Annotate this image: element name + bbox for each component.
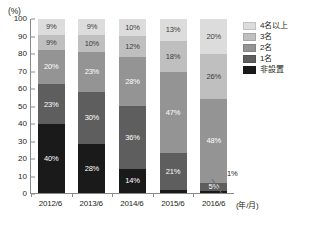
stacked-bar[interactable]: 9%9%20%23%40% (38, 19, 65, 193)
bar-segment-label: 23% (44, 101, 58, 109)
bar-segment-label: 9% (46, 23, 56, 31)
bar-segment[interactable]: 36% (119, 106, 146, 169)
x-axis-tick-mark (112, 193, 113, 197)
bar-column: 9%10%23%30%28% (72, 19, 113, 193)
bar-segment[interactable] (200, 191, 227, 193)
legend-item[interactable]: 3名 (243, 33, 288, 41)
bar-segment-label: 23% (85, 68, 99, 76)
x-axis-tick-mark (153, 193, 154, 197)
bar-segment-label: 47% (166, 109, 180, 117)
stacked-bar[interactable]: 13%18%47%21% (160, 19, 187, 193)
x-axis-tick-label: 2016/6 (193, 199, 234, 213)
bar-segment[interactable]: 47% (160, 72, 187, 153)
bar-segment-label: 10% (125, 24, 139, 32)
y-axis-tick-label: 40 (18, 120, 31, 128)
legend-swatch-icon (243, 33, 256, 41)
stacked-bar[interactable]: 10%12%28%36%14% (119, 19, 146, 193)
x-axis-tick-label: 2015/6 (152, 199, 193, 213)
bar-column: 9%9%20%23%40% (31, 19, 72, 193)
bar-segment[interactable]: 20% (200, 19, 227, 54)
bar-segment[interactable]: 10% (78, 35, 105, 52)
bar-segment-label: 9% (46, 39, 56, 47)
y-axis-tick-label: 20 (18, 155, 31, 163)
bar-segment[interactable]: 48% (200, 99, 227, 183)
legend-item[interactable]: 4名以上 (243, 22, 288, 30)
legend-item-label: 2名 (260, 44, 272, 52)
bar-column: 20%26%48%5% (193, 19, 234, 193)
bar-segment-label: 28% (85, 165, 99, 173)
legend-item-label: 非設置 (260, 66, 283, 74)
x-axis-tick-mark (31, 193, 32, 197)
y-axis-tick-label: 10 (18, 173, 31, 181)
bar-segment[interactable]: 12% (119, 36, 146, 57)
y-axis-tick-label: 30 (18, 138, 31, 146)
bar-segment-label: 36% (125, 134, 139, 142)
bar-segment[interactable]: 20% (38, 50, 65, 84)
bar-segment[interactable]: 23% (38, 84, 65, 124)
x-axis-tick-mark (72, 193, 73, 197)
legend-item[interactable]: 非設置 (243, 66, 288, 74)
bar-segment-label: 30% (85, 114, 99, 122)
bar-segment[interactable] (160, 190, 187, 193)
x-axis-tick-label: 2014/6 (112, 199, 153, 213)
bar-segment[interactable]: 9% (38, 19, 65, 35)
stacked-bar[interactable]: 20%26%48%5% (200, 19, 227, 193)
bar-group: 9%9%20%23%40%9%10%23%30%28%10%12%28%36%1… (31, 19, 234, 193)
bar-segment[interactable]: 30% (78, 92, 105, 144)
y-axis-tick-label: 100 (14, 15, 31, 23)
bar-segment[interactable]: 23% (78, 52, 105, 92)
legend-item-label: 4名以上 (260, 22, 288, 30)
bar-segment[interactable]: 14% (119, 169, 146, 193)
bar-segment[interactable]: 13% (160, 19, 187, 41)
bar-segment-label: 13% (166, 26, 180, 34)
legend: 4名以上3名2名1名非設置 (243, 22, 288, 74)
x-axis-tick-label: 2012/6 (30, 199, 71, 213)
y-axis-tick-label: 70 (18, 68, 31, 76)
bar-segment[interactable]: 28% (78, 144, 105, 193)
bar-segment[interactable]: 21% (160, 153, 187, 189)
annotation-label: 1% (227, 169, 237, 178)
y-axis-tick-label: 0 (23, 190, 31, 198)
bar-segment-label: 10% (85, 40, 99, 48)
bar-segment[interactable]: 5% (200, 183, 227, 192)
legend-swatch-icon (243, 66, 256, 74)
bar-segment[interactable]: 26% (200, 54, 227, 99)
bar-segment[interactable]: 10% (119, 19, 146, 36)
bar-segment-label: 14% (125, 177, 139, 185)
bar-segment[interactable]: 9% (78, 19, 105, 35)
y-axis-tick-label: 60 (18, 85, 31, 93)
y-axis-tick-label: 50 (18, 103, 31, 111)
bar-segment-label: 26% (206, 73, 220, 81)
bar-column: 13%18%47%21% (153, 19, 194, 193)
stacked-bar-chart: (%) 1009080706050403020100 9%9%20%23%40%… (0, 0, 315, 232)
bar-segment[interactable]: 40% (38, 124, 65, 193)
x-axis-tick-mark (193, 193, 194, 197)
bar-segment-label: 9% (87, 23, 97, 31)
x-axis-unit-label: (年/月) (236, 199, 259, 210)
bar-segment-label: 20% (206, 33, 220, 41)
y-axis-tick-label: 80 (18, 50, 31, 58)
legend-item-label: 1名 (260, 55, 272, 63)
x-axis-tick-label: 2013/6 (71, 199, 112, 213)
plot-area: 1009080706050403020100 9%9%20%23%40%9%10… (30, 19, 234, 194)
legend-item-label: 3名 (260, 33, 272, 41)
legend-swatch-icon (243, 22, 256, 30)
bar-segment-label: 40% (44, 155, 58, 163)
stacked-bar[interactable]: 9%10%23%30%28% (78, 19, 105, 193)
bar-segment-label: 12% (125, 43, 139, 51)
bar-segment[interactable]: 18% (160, 41, 187, 72)
y-axis-tick-label: 90 (18, 33, 31, 41)
bar-segment-label: 21% (166, 168, 180, 176)
bar-segment-label: 28% (125, 78, 139, 86)
bar-segment-label: 18% (166, 53, 180, 61)
bar-segment-label: 48% (206, 137, 220, 145)
legend-item[interactable]: 1名 (243, 55, 288, 63)
legend-item[interactable]: 2名 (243, 44, 288, 52)
bar-segment[interactable]: 9% (38, 35, 65, 51)
legend-swatch-icon (243, 55, 256, 63)
x-axis-labels: 2012/62013/62014/62015/62016/6 (30, 199, 234, 213)
bar-segment[interactable]: 28% (119, 57, 146, 106)
legend-swatch-icon (243, 44, 256, 52)
bar-segment-label: 20% (44, 63, 58, 71)
bar-column: 10%12%28%36%14% (112, 19, 153, 193)
